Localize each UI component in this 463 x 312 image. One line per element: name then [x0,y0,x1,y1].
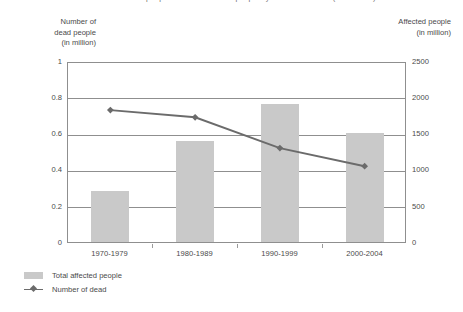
left-axis-title-line-2: dead people [22,28,96,39]
line-icon-diamond [30,285,37,292]
chart-title: Number of dead people and total affected… [87,0,376,2]
right-axis-title-line-2: (in million) [331,28,451,39]
line-path [110,110,364,166]
left-tick-3: 0.4 [16,166,62,174]
x-label-2: 1990-1999 [237,249,322,258]
chart-container: Number of dead people and total affected… [0,0,463,312]
bar-swatch-icon [24,272,43,279]
legend-item-number-of-dead: Number of dead [24,282,122,296]
left-tick-5: 0 [16,239,62,247]
right-tick-0: 2500 [412,58,452,66]
line-marker-1970-1979 [107,107,114,114]
right-tick-5: 0 [412,239,452,247]
x-tick-3 [322,244,323,248]
right-tick-1: 2000 [412,94,452,102]
legend-label-0: Total affected people [52,271,122,280]
right-tick-3: 1000 [412,166,452,174]
x-label-3: 2000-2004 [322,249,407,258]
legend-label-1: Number of dead [52,285,106,294]
left-axis-title-line-1: Number of [22,17,96,28]
x-tick-1 [152,244,153,248]
chart-title-strip: Number of dead people and total affected… [0,0,463,9]
line-marker-1990-1999 [276,145,283,152]
legend-item-total-affected-people: Total affected people [24,268,122,282]
plot-area [67,62,406,243]
left-axis-title-line-3: (in million) [22,38,96,49]
left-tick-0: 1 [16,58,62,66]
chart-legend: Total affected people Number of dead [24,268,122,296]
left-axis-title: Number of dead people (in million) [22,17,96,49]
right-axis-title-line-1: Affected people [331,17,451,28]
x-tick-2 [237,244,238,248]
right-tick-2: 1500 [412,130,452,138]
line-markers [107,107,368,170]
line-marker-icon [24,285,43,294]
line-marker-2000-2004 [361,163,368,170]
left-tick-4: 0.2 [16,203,62,211]
dead-people-line-series [68,63,407,244]
x-label-0: 1970-1979 [67,249,152,258]
left-tick-1: 0.8 [16,94,62,102]
line-marker-1980-1989 [192,114,199,121]
left-tick-2: 0.6 [16,130,62,138]
right-tick-4: 500 [412,203,452,211]
x-label-1: 1980-1989 [152,249,237,258]
right-axis-title: Affected people (in million) [331,17,451,38]
